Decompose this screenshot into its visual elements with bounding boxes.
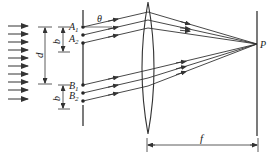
focused-rays	[148, 12, 257, 86]
diffracted-rays	[83, 12, 148, 101]
f-label: f	[200, 132, 205, 144]
convex-lens	[142, 2, 154, 134]
d-label: d	[33, 52, 45, 58]
b-bottom-label: b	[51, 96, 62, 101]
diffraction-diagram: d b b A1 A2 B1 B2 θ	[0, 0, 272, 159]
label-A2: A2	[68, 33, 79, 46]
incident-light-arrows	[8, 26, 28, 99]
P-label: P	[259, 39, 266, 50]
b-top-label: b	[51, 39, 62, 44]
